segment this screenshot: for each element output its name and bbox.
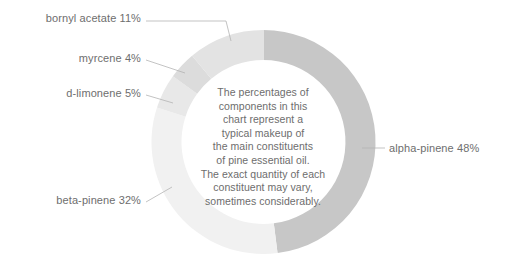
leader-line-bornyl-acetate — [146, 21, 231, 41]
slice-label-myrcene: myrcene 4% — [8, 52, 141, 65]
center-annotation-text: The percentages of components in this ch… — [178, 86, 348, 208]
center-annotation-line: chart represent a — [178, 113, 348, 127]
donut-chart-figure: bornyl acetate 11% myrcene 4% d-limonene… — [0, 0, 505, 275]
center-annotation-line: The exact quantity of each — [178, 168, 348, 182]
center-annotation-line: of pine essential oil. — [178, 154, 348, 168]
center-annotation-line: sometimes considerably. — [178, 195, 348, 209]
slice-label-beta-pinene: beta-pinene 32% — [8, 194, 141, 207]
center-annotation-line: constituent may vary, — [178, 181, 348, 195]
center-annotation-line: the main constituents — [178, 140, 348, 154]
slice-label-d-limonene: d-limonene 5% — [8, 87, 141, 100]
leader-line-myrcene — [146, 60, 185, 73]
center-annotation-line: The percentages of — [178, 86, 348, 100]
slice-label-bornyl-acetate: bornyl acetate 11% — [8, 12, 141, 25]
center-annotation-line: components in this — [178, 100, 348, 114]
center-annotation-line: typical makeup of — [178, 127, 348, 141]
slice-label-alpha-pinene: alpha-pinene 48% — [389, 142, 501, 155]
